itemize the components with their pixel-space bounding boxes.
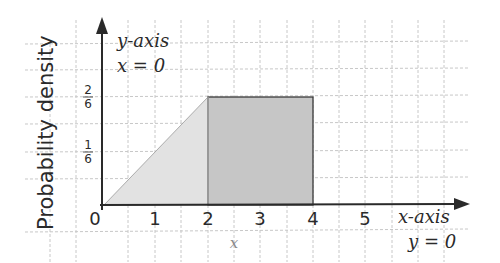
- x-axis-label: x-axis: [398, 206, 450, 227]
- y-axis-arrow-icon: [96, 17, 108, 34]
- ramp-region: [104, 97, 208, 205]
- x-axis-equation: y = 0: [407, 231, 456, 252]
- y-axis-equation: x = 0: [117, 55, 165, 76]
- y-label: Probability density: [34, 35, 58, 230]
- svg-text:2: 2: [84, 83, 92, 97]
- svg-text:3: 3: [254, 208, 265, 229]
- x-ticks: 0 1 2 3 4 5: [89, 208, 370, 229]
- y-tick-2-6: 2 6: [83, 83, 93, 111]
- svg-text:2: 2: [202, 208, 213, 229]
- x-axis-arrow-icon: [454, 198, 470, 210]
- svg-text:1: 1: [149, 208, 160, 229]
- svg-text:4: 4: [307, 208, 318, 229]
- y-tick-1-6: 1 6: [83, 138, 93, 166]
- svg-text:5: 5: [359, 208, 370, 229]
- x-label: x: [230, 234, 239, 252]
- pdf-chart: y-axis x = 0 2 6 1 6 0 1 2 3 4 5 x-axis …: [0, 0, 500, 263]
- y-axis-label: y-axis: [116, 30, 169, 51]
- svg-text:0: 0: [89, 208, 100, 229]
- x-axis: [100, 204, 456, 205]
- svg-text:6: 6: [84, 97, 92, 111]
- svg-text:1: 1: [84, 138, 92, 152]
- svg-text:6: 6: [84, 152, 92, 166]
- plateau-region: [208, 97, 313, 205]
